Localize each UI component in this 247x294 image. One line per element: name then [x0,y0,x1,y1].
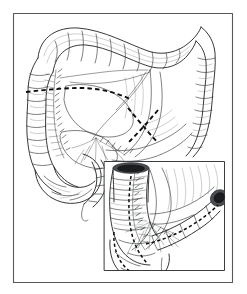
detail-panel [105,162,231,283]
colon-resection-illustration [0,0,247,294]
figure-root: Right hemicolectomy resection diagram La… [0,0,247,294]
